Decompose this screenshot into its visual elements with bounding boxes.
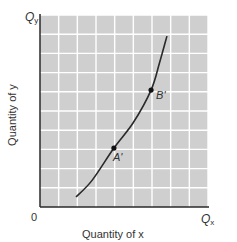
- point-marker: [148, 87, 153, 92]
- point-label: A': [113, 152, 122, 163]
- origin-label: 0: [31, 212, 37, 223]
- x-axis-end-label: Qx: [201, 213, 214, 227]
- point-marker: [111, 145, 116, 150]
- y-axis-end-label: Qy: [25, 11, 38, 25]
- y-axis-title: Quantity of y: [2, 60, 22, 170]
- point-label: B': [156, 90, 165, 101]
- chart-canvas: [0, 0, 237, 242]
- x-axis-title: Quantity of x: [82, 229, 144, 240]
- y-axis-title-text: Quantity of y: [6, 84, 18, 146]
